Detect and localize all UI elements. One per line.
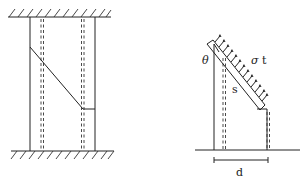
arrow-icon <box>243 69 250 77</box>
arrow-icon <box>251 79 258 87</box>
stress-arrows <box>215 34 269 101</box>
top-hatching <box>9 9 111 17</box>
arrow-icon <box>259 89 266 97</box>
arrow-icon <box>219 39 226 47</box>
right-figure: θ σ t s d <box>195 34 300 178</box>
bottom-hatching <box>11 151 114 159</box>
arrow-icon <box>223 44 230 52</box>
arrow-icon <box>239 64 246 72</box>
arrow-icon <box>215 34 222 42</box>
arrow-icon <box>262 93 269 101</box>
arrow-icon <box>231 54 238 62</box>
label-d: d <box>236 166 243 178</box>
label-s: s <box>232 83 238 96</box>
label-theta: θ <box>202 54 209 67</box>
arrow-icon <box>235 59 242 67</box>
strip-edge-upper <box>213 40 265 105</box>
label-t: t <box>262 54 267 67</box>
arrow-icon <box>227 49 234 57</box>
label-sigma: σ <box>251 54 259 67</box>
theta-ref-line <box>214 44 219 52</box>
arrow-icon <box>255 84 262 92</box>
arrow-icon <box>247 74 254 82</box>
diagonal-tension-line <box>30 47 83 109</box>
diagram-canvas: θ σ t s d <box>0 0 304 178</box>
strip-top-cap <box>207 40 213 44</box>
left-figure <box>8 9 114 159</box>
